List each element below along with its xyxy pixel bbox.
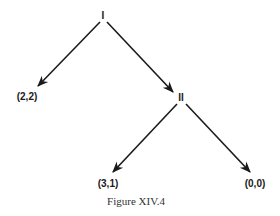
figure-caption: Figure XIV.4 xyxy=(0,195,272,207)
node-player-II: II xyxy=(178,92,184,103)
game-tree: I II (2,2) (3,1) (0,0) xyxy=(0,0,280,216)
node-player-I: I xyxy=(102,10,105,21)
edge-I-to-II xyxy=(107,22,173,92)
payoff-0-0: (0,0) xyxy=(245,178,266,189)
edge-II-to-0-0 xyxy=(186,104,250,172)
edge-I-to-2-2 xyxy=(38,22,100,86)
payoff-2-2: (2,2) xyxy=(17,91,38,102)
edge-II-to-3-1 xyxy=(113,104,177,172)
payoff-3-1: (3,1) xyxy=(98,178,119,189)
